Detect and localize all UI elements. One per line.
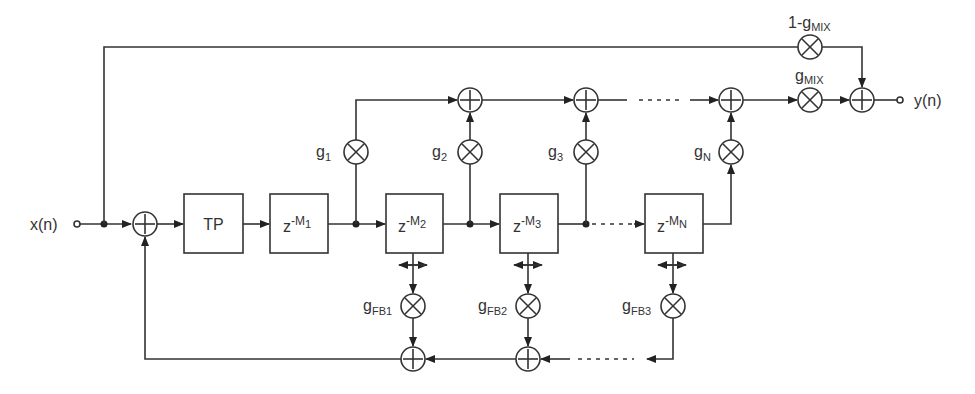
delay-block-n: z-MN — [645, 194, 703, 253]
tap-gain-label-n: gN — [694, 143, 711, 163]
feedback-multiplier-2 — [516, 294, 540, 318]
dry-mix-multiplier — [798, 35, 822, 59]
tap-multiplier-1 — [344, 140, 368, 164]
tp-block: TP — [184, 194, 243, 253]
fdn-diagram: x(n) 1-gMIX TP z-M1 g1 z-M2 — [0, 0, 975, 394]
feedback-multiplier-1 — [401, 294, 425, 318]
input-adder — [133, 212, 157, 236]
tap-sum-adder-3 — [574, 88, 598, 112]
tap-gain-label-1: g1 — [316, 143, 331, 163]
tap-sum-adder-n — [719, 88, 743, 112]
feedback-gain-label-2: gFB2 — [478, 297, 507, 317]
wet-mix-multiplier — [798, 88, 822, 112]
delay-block-2: z-M2 — [386, 194, 443, 253]
delay-block-3: z-M3 — [500, 194, 558, 253]
feedback-gain-label-1: gFB1 — [363, 297, 392, 317]
tap-multiplier-2 — [458, 140, 482, 164]
tap-multiplier-3 — [574, 140, 598, 164]
feedback-adder-2 — [516, 347, 540, 371]
tap-multiplier-n — [719, 140, 743, 164]
fb-3-return-wire — [647, 318, 673, 359]
feedback-multiplier-3 — [661, 294, 685, 318]
output-adder — [850, 88, 874, 112]
output-label: y(n) — [914, 92, 942, 109]
feedback-gain-label-3: gFB3 — [622, 297, 651, 317]
dry-to-output-wire — [822, 47, 862, 87]
feedback-adder-1 — [401, 347, 425, 371]
input-label: x(n) — [30, 216, 58, 233]
tap-sum-adder-2 — [458, 88, 482, 112]
tap-gain-label-3: g3 — [548, 143, 563, 163]
wet-mix-gain-label: gMIX — [795, 67, 824, 86]
tap-gain-label-2: g2 — [432, 143, 447, 163]
input-terminal: x(n) — [30, 216, 80, 233]
output-terminal: y(n) — [897, 92, 942, 109]
delayN-to-tapN-wire — [703, 165, 731, 224]
svg-text:TP: TP — [203, 216, 223, 233]
dry-mix-gain-label: 1-gMIX — [788, 14, 831, 33]
delay-block-1: z-M1 — [270, 194, 328, 253]
tap-1-to-sum-wire — [356, 100, 457, 140]
